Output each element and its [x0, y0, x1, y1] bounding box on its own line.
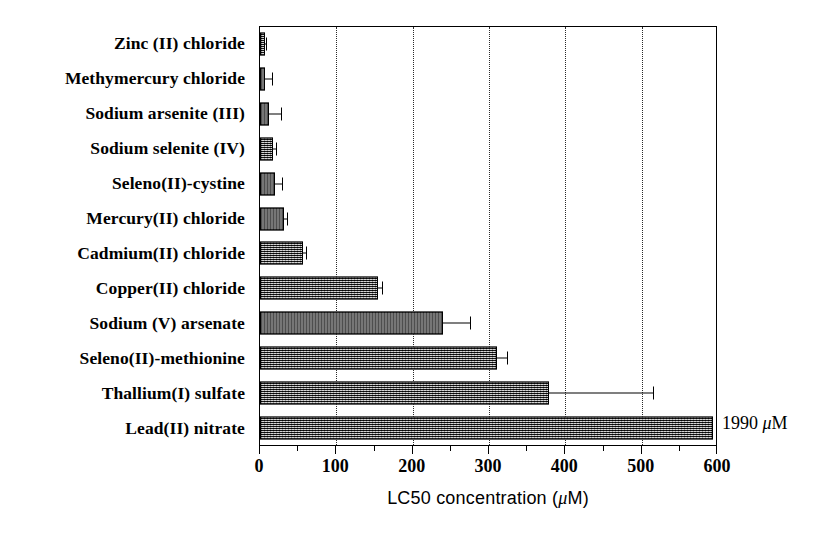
error-bar-cap: [287, 212, 288, 225]
y-label-sodium-selenite-iv: Sodium selenite (IV): [0, 131, 252, 166]
error-bar-cap: [276, 142, 277, 155]
x-tick-label-200: 200: [398, 456, 425, 477]
chart-figure: Zinc (II) chloride Methymercury chloride…: [0, 0, 828, 538]
bar: [260, 137, 273, 160]
bar: [260, 207, 284, 230]
error-bar-cap: [653, 386, 654, 399]
bar: [260, 277, 378, 300]
y-axis-category-labels: Zinc (II) chloride Methymercury chloride…: [0, 26, 252, 446]
error-bar-line: [269, 114, 281, 115]
annotation-mu-symbol: μ: [763, 413, 772, 433]
x-tick-label-100: 100: [322, 456, 349, 477]
x-minor-tick-150: [374, 446, 375, 451]
x-minor-tick-450: [603, 446, 604, 451]
y-label-zinc-ii-chloride: Zinc (II) chloride: [0, 26, 252, 61]
bar-row: [260, 271, 716, 306]
x-tick-600: [716, 446, 717, 454]
error-bar-cap: [266, 38, 267, 51]
bar-row: [260, 27, 716, 62]
bar-row: [260, 62, 716, 97]
bar: [260, 381, 549, 404]
bar-row: [260, 306, 716, 341]
y-label-sodium-v-arsenate: Sodium (V) arsenate: [0, 306, 252, 341]
error-bar-line: [549, 392, 654, 393]
x-tick-label-300: 300: [475, 456, 502, 477]
annotation-unit: M: [772, 413, 788, 433]
bar-row: [260, 410, 716, 445]
error-bar-cap: [282, 177, 283, 190]
x-axis-tick-labels: 0100200300400500600: [259, 456, 717, 480]
bar-row: [260, 97, 716, 132]
y-label-cadmium-ii-chloride: Cadmium(II) chloride: [0, 236, 252, 271]
error-bar-line: [497, 357, 508, 358]
bar: [260, 103, 269, 126]
plot-area: [259, 26, 717, 446]
bar-row: [260, 236, 716, 271]
y-label-copper-ii-chloride: Copper(II) chloride: [0, 271, 252, 306]
error-bar-cap: [272, 73, 273, 86]
x-tick-label-400: 400: [551, 456, 578, 477]
y-label-lead-ii-nitrate: Lead(II) nitrate: [0, 411, 252, 446]
x-tick-300: [488, 446, 489, 454]
x-tick-200: [412, 446, 413, 454]
x-minor-tick-50: [297, 446, 298, 451]
x-tick-label-500: 500: [627, 456, 654, 477]
y-label-seleno-ii-cystine: Seleno(II)-cystine: [0, 166, 252, 201]
y-label-methymercury-chloride: Methymercury chloride: [0, 61, 252, 96]
x-minor-tick-350: [526, 446, 527, 451]
error-bar-cap: [470, 317, 471, 330]
bar-row: [260, 166, 716, 201]
bar: [260, 346, 497, 369]
bar-row: [260, 201, 716, 236]
error-bar-cap: [281, 108, 282, 121]
error-bar-cap: [382, 282, 383, 295]
bar: [260, 242, 303, 265]
x-tick-500: [641, 446, 642, 454]
error-bar-cap: [507, 351, 508, 364]
x-minor-tick-250: [450, 446, 451, 451]
error-bar-line: [443, 323, 470, 324]
x-tick-label-0: 0: [255, 456, 264, 477]
y-label-mercury-ii-chloride: Mercury(II) chloride: [0, 201, 252, 236]
annotation-value: 1990: [722, 413, 758, 433]
y-label-thallium-i-sulfate: Thallium(I) sulfate: [0, 376, 252, 411]
y-label-sodium-arsenite-iii: Sodium arsenite (III): [0, 96, 252, 131]
x-axis-ticks: [259, 446, 717, 455]
error-bar-cap: [306, 247, 307, 260]
overflow-value-annotation: 1990 μM: [722, 413, 788, 434]
x-tick-label-600: 600: [704, 456, 731, 477]
bar: [260, 312, 443, 335]
bar-series: [260, 27, 716, 445]
x-axis-title-prefix: LC50 concentration (: [387, 488, 558, 508]
x-minor-tick-550: [679, 446, 680, 451]
x-tick-0: [259, 446, 260, 454]
x-axis-title: LC50 concentration (μM): [259, 488, 717, 509]
bar-row: [260, 375, 716, 410]
x-tick-400: [564, 446, 565, 454]
y-label-seleno-ii-methionine: Seleno(II)-methionine: [0, 341, 252, 376]
bar-row: [260, 131, 716, 166]
bar: [260, 172, 275, 195]
error-bar-line: [275, 183, 282, 184]
error-bar-line: [265, 79, 272, 80]
x-tick-100: [335, 446, 336, 454]
bar-row: [260, 340, 716, 375]
x-axis-title-suffix: M): [567, 488, 588, 508]
bar: [260, 416, 713, 439]
